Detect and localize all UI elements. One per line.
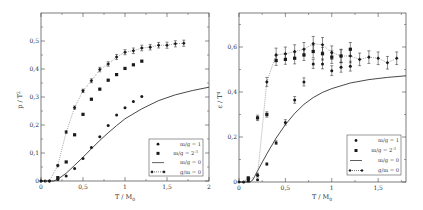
data-point-diamond [265, 80, 269, 84]
y-tick-label: 0,1 [29, 149, 39, 156]
data-point-diamond [140, 46, 144, 50]
data-point-diamond [358, 58, 362, 62]
y-tick-label: 0,2 [227, 133, 237, 140]
data-point-circle [65, 174, 68, 177]
data-point-diamond [395, 56, 399, 60]
data-point-diamond [165, 43, 169, 47]
data-point-diamond [48, 179, 52, 183]
data-point-square [256, 116, 259, 119]
data-point-diamond [386, 61, 390, 65]
circle-marker-icon [355, 139, 358, 142]
data-point-square [98, 88, 101, 91]
data-point-circle [321, 62, 324, 65]
x-tick-label: 1 [330, 184, 334, 191]
data-point-square [90, 98, 93, 101]
data-point-circle [73, 167, 76, 170]
data-point-diamond [174, 42, 178, 46]
data-point-square [73, 133, 76, 136]
data-point-diamond [284, 52, 288, 56]
data-point-circle [330, 69, 333, 72]
data-point-circle [293, 98, 296, 101]
data-point-circle [302, 80, 305, 83]
right-y-axis-title: ε / T4 [216, 91, 225, 108]
data-point-square [65, 160, 68, 163]
y-tick-label: 0,2 [29, 121, 39, 128]
data-point-diamond [81, 89, 85, 93]
right-chart-panel: 00,511,500,20,40,6 m/g = 1m/g = 2-3m/g =… [216, 13, 407, 202]
data-point-circle [115, 113, 118, 116]
data-point-square [321, 52, 324, 55]
x-tick-label: 0,5 [281, 184, 291, 191]
data-point-diamond [73, 106, 77, 110]
figure: 00,511,5200,10,20,30,40,5 m/g = 1m/g = 2… [0, 0, 423, 210]
legend-label: m/g = 0 [378, 157, 399, 164]
left-chart-panel: 00,511,5200,10,20,30,40,5 m/g = 1m/g = 2… [16, 13, 212, 202]
square-marker-icon [355, 149, 358, 152]
data-point-diamond [311, 42, 315, 46]
data-point-diamond [274, 53, 278, 57]
left-legend: m/g = 1m/g = 2-3m/g = 0g/m = 0 [149, 139, 203, 176]
data-point-square [81, 113, 84, 116]
data-point-circle [340, 66, 343, 69]
data-point-circle [107, 124, 110, 127]
legend-label: g/m = 0 [180, 169, 201, 176]
data-point-diamond [349, 54, 353, 58]
x-tick-label: 1,5 [373, 184, 383, 191]
y-tick-label: 0 [35, 177, 39, 184]
data-point-diamond [132, 49, 136, 53]
x-tick-label: 0,5 [78, 183, 88, 190]
legend-label: g/m = 0 [378, 167, 399, 174]
data-point-circle [98, 135, 101, 138]
legend-label: m/g = 1 [180, 141, 201, 148]
data-point-square [265, 113, 268, 116]
y-tick-label: 0,5 [29, 37, 39, 44]
data-point-circle [312, 62, 315, 65]
series-m-g-2-3 [247, 43, 352, 180]
data-point-circle [265, 163, 268, 166]
x-tick-label: 0 [237, 184, 241, 191]
data-point-square [140, 60, 143, 63]
data-point-circle [140, 95, 143, 98]
data-point-circle [349, 65, 352, 68]
legend-label: m/g = 1 [378, 137, 399, 144]
y-tick-label: 0,4 [227, 88, 237, 95]
data-point-diamond [123, 50, 127, 54]
data-point-diamond [367, 55, 371, 59]
data-point-diamond [157, 43, 161, 47]
data-point-diamond [148, 45, 152, 49]
right-x-axis-title: T / M0 [312, 193, 332, 202]
data-point-diamond [376, 56, 380, 60]
series-m-g-2-3 [56, 60, 143, 180]
data-point-circle [256, 178, 259, 181]
y-tick-label: 0,3 [29, 93, 39, 100]
x-tick-label: 2 [207, 183, 211, 190]
data-point-diamond [115, 55, 119, 59]
data-point-diamond [330, 51, 334, 55]
data-point-square [107, 79, 110, 82]
data-point-circle [275, 141, 278, 144]
right-legend: m/g = 1m/g = 2-3m/g = 0g/m = 0 [347, 135, 401, 175]
data-point-square [132, 63, 135, 66]
chart-svg: 00,511,5200,10,20,30,40,5 m/g = 1m/g = 2… [0, 0, 423, 210]
legend-label: m/g = 0 [180, 159, 201, 166]
y-tick-label: 0 [233, 178, 237, 185]
data-point-diamond [182, 41, 186, 45]
series-m-g-1 [40, 95, 144, 183]
data-point-square [115, 73, 118, 76]
y-tick-label: 0,6 [227, 43, 237, 50]
x-tick-label: 1 [123, 183, 127, 190]
x-tick-label: 1,5 [162, 183, 172, 190]
x-tick-label: 0 [39, 183, 43, 190]
data-point-circle [132, 100, 135, 103]
y-tick-label: 0,4 [29, 65, 39, 72]
left-y-axis-title: p / T2 [16, 91, 25, 109]
circle-marker-icon [157, 143, 160, 146]
data-point-circle [124, 106, 127, 109]
data-point-square [123, 67, 126, 70]
left-x-axis-title: T / M0 [115, 193, 135, 202]
square-marker-icon [157, 152, 160, 155]
